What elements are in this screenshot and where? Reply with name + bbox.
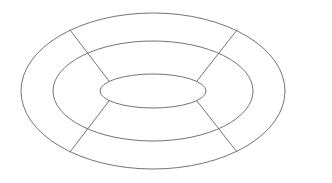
diagram-canvas bbox=[0, 0, 332, 183]
diagram-background bbox=[0, 0, 332, 183]
concentric-ellipse-diagram bbox=[0, 0, 332, 183]
